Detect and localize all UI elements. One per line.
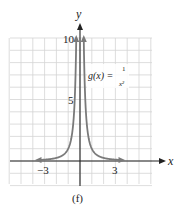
function-label-denominator: x² [118,80,125,88]
x-axis-label: x [167,154,174,168]
x-tick-neg3: −3 [37,164,49,176]
curve-arrow-horizontal-icon [118,157,125,163]
y-axis-arrow-icon [77,23,83,30]
x-tick-3: 3 [112,164,118,176]
function-label-numerator: 1 [122,65,126,73]
graph-figure: x y 10 5 −3 3 g(x) = 1 x² (f) [0,0,180,208]
curve-right-branch [84,41,123,160]
curve-arrow-horizontal-icon [35,157,42,163]
y-tick-10: 10 [63,33,75,45]
figure-caption: (f) [72,192,83,205]
y-axis-label: y [75,7,82,21]
y-tick-5: 5 [68,94,74,106]
x-axis-arrow-icon [159,158,166,164]
function-label: g(x) = 1 x² [87,64,129,88]
grid [9,38,152,186]
axes [10,23,166,186]
function-label-lhs: g(x) = [88,70,113,82]
